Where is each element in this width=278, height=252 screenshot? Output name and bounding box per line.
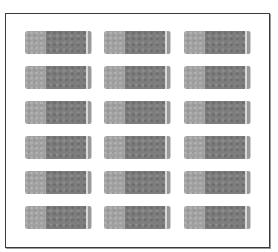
block-segment: [170, 31, 171, 54]
block-segment: [91, 31, 92, 54]
block-segment: [46, 171, 86, 194]
block-segment: [125, 66, 165, 89]
block-segment: [250, 136, 251, 159]
block-segment: [170, 66, 171, 89]
grid-block-r6-c2: [104, 206, 171, 229]
grid-block-r3-c1: [25, 101, 92, 124]
block-segment: [91, 101, 92, 124]
block-segment: [125, 101, 165, 124]
block-segment: [104, 206, 125, 229]
block-segment: [104, 66, 125, 89]
block-segment: [250, 101, 251, 124]
block-segment: [46, 66, 86, 89]
grid-block-r1-c3: [184, 31, 251, 54]
grid-block-r2-c3: [184, 66, 251, 89]
block-segment: [205, 66, 245, 89]
block-segment: [170, 136, 171, 159]
grid-block-r6-c3: [184, 206, 251, 229]
block-segment: [46, 31, 86, 54]
block-segment: [250, 206, 251, 229]
block-segment: [91, 136, 92, 159]
block-segment: [25, 171, 46, 194]
block-segment: [104, 171, 125, 194]
block-segment: [125, 206, 165, 229]
grid-block-r1-c1: [25, 31, 92, 54]
block-segment: [91, 206, 92, 229]
block-segment: [125, 136, 165, 159]
grid-frame: [5, 13, 270, 248]
block-segment: [104, 136, 125, 159]
grid-block-r4-c1: [25, 136, 92, 159]
grid-block-r4-c2: [104, 136, 171, 159]
grid-block-r5-c2: [104, 171, 171, 194]
block-segment: [25, 206, 46, 229]
block-segment: [125, 171, 165, 194]
block-segment: [25, 136, 46, 159]
block-segment: [25, 101, 46, 124]
block-segment: [125, 31, 165, 54]
grid-block-r4-c3: [184, 136, 251, 159]
block-grid: [6, 14, 269, 247]
block-segment: [46, 136, 86, 159]
block-segment: [25, 31, 46, 54]
block-segment: [184, 66, 205, 89]
block-segment: [46, 206, 86, 229]
block-segment: [205, 171, 245, 194]
block-segment: [170, 206, 171, 229]
grid-block-r5-c1: [25, 171, 92, 194]
block-segment: [184, 206, 205, 229]
block-segment: [170, 171, 171, 194]
grid-block-r5-c3: [184, 171, 251, 194]
grid-block-r2-c2: [104, 66, 171, 89]
block-segment: [104, 31, 125, 54]
grid-block-r1-c2: [104, 31, 171, 54]
block-segment: [104, 101, 125, 124]
block-segment: [184, 136, 205, 159]
block-segment: [205, 31, 245, 54]
block-segment: [170, 101, 171, 124]
block-segment: [25, 66, 46, 89]
block-segment: [91, 171, 92, 194]
block-segment: [205, 101, 245, 124]
block-segment: [46, 101, 86, 124]
block-segment: [250, 31, 251, 54]
block-segment: [205, 136, 245, 159]
grid-block-r6-c1: [25, 206, 92, 229]
block-segment: [250, 66, 251, 89]
block-segment: [250, 171, 251, 194]
block-segment: [184, 101, 205, 124]
grid-block-r3-c2: [104, 101, 171, 124]
grid-block-r3-c3: [184, 101, 251, 124]
grid-block-r2-c1: [25, 66, 92, 89]
block-segment: [184, 31, 205, 54]
block-segment: [184, 171, 205, 194]
block-segment: [91, 66, 92, 89]
block-segment: [205, 206, 245, 229]
